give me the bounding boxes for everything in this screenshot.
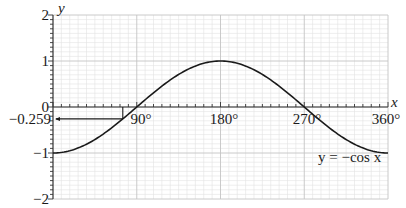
x-tick-180: 180°: [210, 111, 239, 127]
curve-label: y = −cos x: [318, 149, 382, 165]
x-tick-270: 270°: [293, 111, 322, 127]
y-ref-label: −0.259: [9, 111, 51, 127]
chart: y x 2 1 0 −0.259 −1 −2 90° 180° 270° 360…: [0, 0, 406, 208]
y-tick-2: 2: [42, 7, 50, 23]
x-axis-label: x: [390, 94, 398, 110]
x-tick-360: 360°: [372, 111, 401, 127]
y-tick-1: 1: [42, 53, 50, 69]
y-axis-label: y: [56, 0, 65, 16]
y-tick-neg2: −2: [33, 191, 49, 207]
x-tick-90: 90°: [131, 111, 152, 127]
y-tick-neg1: −1: [33, 145, 49, 161]
reference-line: [55, 107, 123, 121]
